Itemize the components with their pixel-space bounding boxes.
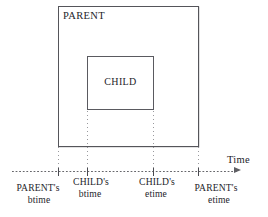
parent-box-label: PARENT [63, 10, 105, 22]
time-axis-line [12, 171, 238, 172]
child-box-label: CHILD [87, 76, 154, 88]
process-lifetime-diagram: PARENT CHILD Time PARENT's btime CHILD's… [0, 0, 268, 217]
axis-tick-parent-btime [58, 168, 59, 176]
axis-tick-parent-etime [198, 168, 199, 176]
guide-line-child-btime [87, 111, 88, 171]
time-axis-label: Time [227, 154, 250, 166]
guide-line-child-etime [153, 111, 154, 171]
tick-label-parent-etime-line1: PARENT's [180, 182, 252, 194]
tick-label-child-btime-line2: btime [53, 188, 127, 200]
axis-tick-child-btime [87, 168, 88, 176]
tick-label-parent-etime-line2: etime [186, 194, 252, 206]
arrow-right-icon [234, 167, 241, 173]
tick-label-child-btime-line1: CHILD's [55, 176, 127, 188]
tick-label-parent-etime: PARENT's etime [180, 182, 252, 205]
axis-tick-child-etime [153, 168, 154, 176]
